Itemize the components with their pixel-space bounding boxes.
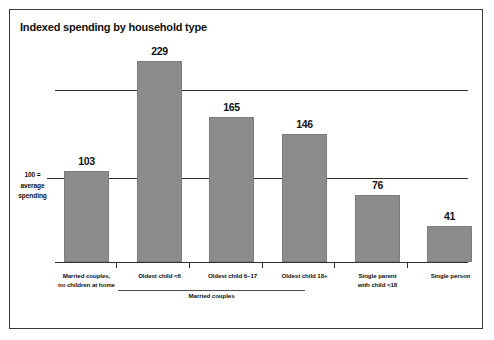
category-label-married-no-children: Married couples, no children at home bbox=[50, 271, 123, 289]
category-label-oldest-child-under-6: Oldest child <6 bbox=[123, 271, 196, 280]
bar-oldest-child-18-plus bbox=[282, 134, 327, 262]
category-label-oldest-child-18-plus: Oldest child 18+ bbox=[268, 271, 341, 280]
bar-oldest-child-6-17 bbox=[209, 117, 254, 262]
category-label-line-1: Married couples, bbox=[50, 271, 123, 280]
axis-tick bbox=[262, 263, 263, 268]
bar-oldest-child-under-6 bbox=[137, 61, 182, 262]
category-label-line-1: Oldest child 18+ bbox=[268, 271, 341, 280]
category-label-line-1: Single parent bbox=[341, 271, 414, 280]
group-bracket-label: Married couples bbox=[118, 292, 305, 299]
bar-value-label: 165 bbox=[209, 101, 254, 113]
category-label-oldest-child-6-17: Oldest child 6–17 bbox=[196, 271, 269, 280]
category-label-line-1: Oldest child <6 bbox=[123, 271, 196, 280]
gridline-100 bbox=[47, 178, 468, 179]
axis-tick bbox=[334, 263, 335, 268]
chart-screenshot: Indexed spending by household type 100 =… bbox=[0, 0, 494, 340]
category-label-line-1: Single person bbox=[414, 271, 487, 280]
bar-value-label: 146 bbox=[282, 118, 327, 130]
bar-value-label: 103 bbox=[64, 155, 109, 167]
category-label-line-2: no children at home bbox=[50, 280, 123, 289]
group-bracket-line bbox=[118, 290, 305, 291]
bar-single-parent bbox=[355, 195, 400, 262]
y-axis-label-line-1: 100 = bbox=[10, 170, 55, 181]
bar-married-no-children bbox=[64, 171, 109, 262]
category-label-single-person: Single person bbox=[414, 271, 487, 280]
bar-value-label: 229 bbox=[137, 45, 182, 57]
axis-tick bbox=[116, 263, 117, 268]
category-label-single-parent: Single parent with child <18 bbox=[341, 271, 414, 289]
y-axis-label: 100 = average spending bbox=[10, 170, 55, 202]
category-label-line-1: Oldest child 6–17 bbox=[196, 271, 269, 280]
gridline-200 bbox=[55, 90, 468, 91]
plot-area: 100 = average spending 103 229 165 146 7… bbox=[0, 0, 494, 340]
y-axis-label-line-2: average bbox=[10, 181, 55, 192]
axis-tick bbox=[407, 263, 408, 268]
bar-single-person bbox=[427, 226, 472, 262]
axis-tick bbox=[189, 263, 190, 268]
category-label-line-2: with child <18 bbox=[341, 280, 414, 289]
bar-value-label: 76 bbox=[355, 179, 400, 191]
y-axis-label-line-3: spending bbox=[10, 191, 55, 202]
bar-value-label: 41 bbox=[427, 210, 472, 222]
